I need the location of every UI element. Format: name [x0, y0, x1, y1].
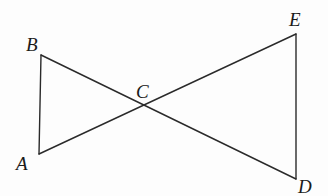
point-label-A: A: [14, 153, 28, 174]
segment-AE: [39, 34, 296, 154]
point-label-D: D: [297, 176, 312, 196]
segment-BD: [41, 55, 296, 179]
point-label-C: C: [136, 81, 149, 102]
diagram-canvas: B A C E D: [0, 0, 328, 196]
segment-AB: [39, 55, 41, 154]
point-label-E: E: [288, 9, 301, 30]
geometry-diagram: B A C E D: [0, 0, 328, 196]
point-label-B: B: [26, 34, 38, 55]
